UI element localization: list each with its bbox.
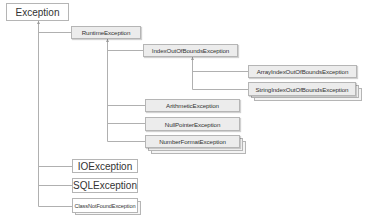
arrowhead-icon — [191, 57, 194, 60]
node-exception: Exception — [6, 3, 69, 21]
exception-hierarchy-diagram: Exception RuntimeException IndexOutOfBou… — [0, 0, 369, 222]
node-null-pointer-exception: NullPointerException — [145, 117, 240, 131]
arrowhead-icon — [37, 21, 40, 24]
arrowhead-icon — [106, 39, 109, 42]
node-array-index-out-of-bounds-exception: ArrayIndexOutOfBoundsException — [248, 65, 357, 78]
node-io-exception: IOException — [72, 159, 138, 173]
node-string-index-out-of-bounds-exception: StringIndexOutOfBoundsException — [248, 82, 356, 96]
node-class-not-found-exception: ClassNotFoundException — [72, 198, 138, 213]
node-index-out-of-bounds-exception: IndexOutOfBoundsException — [143, 44, 238, 57]
node-arithmetic-exception: ArithmeticException — [145, 99, 240, 112]
node-number-format-exception: NumberFormatException — [145, 135, 240, 148]
node-runtime-exception: RuntimeException — [71, 26, 141, 39]
node-sql-exception: SQLException — [72, 178, 138, 193]
